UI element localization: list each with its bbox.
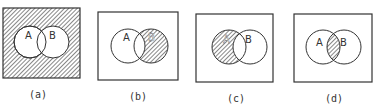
- label-b-panel-a: B: [49, 30, 56, 41]
- panel-b: [98, 12, 178, 80]
- label-a-panel-d: A: [316, 37, 323, 48]
- label-b-panel-b: B: [148, 32, 155, 43]
- panel-c: [196, 14, 273, 82]
- caption-d: (d): [314, 93, 354, 104]
- label-b-panel-c: B: [245, 34, 252, 45]
- caption-c: (c): [216, 93, 256, 104]
- label-a-panel-a: A: [25, 30, 32, 41]
- caption-a: (a): [18, 89, 58, 100]
- label-b-panel-d: B: [340, 37, 347, 48]
- caption-b: (b): [118, 91, 158, 102]
- panel-a: [3, 8, 80, 78]
- label-a-panel-b: A: [123, 32, 130, 43]
- label-a-panel-c: A: [223, 34, 230, 45]
- panel-d: [294, 14, 372, 82]
